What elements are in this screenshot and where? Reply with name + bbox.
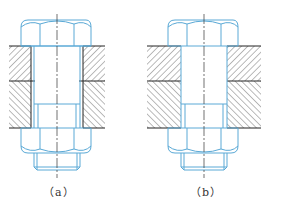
caption-a: （a） bbox=[43, 183, 75, 199]
bolt-head-b bbox=[168, 20, 238, 46]
bolt-connection-diagram bbox=[0, 0, 298, 207]
figure-b bbox=[147, 14, 261, 178]
bolt-head-a bbox=[21, 20, 91, 46]
figure-a bbox=[9, 14, 105, 178]
nut-a bbox=[21, 128, 91, 153]
nut-b bbox=[168, 128, 238, 153]
caption-b: （b） bbox=[190, 183, 222, 199]
